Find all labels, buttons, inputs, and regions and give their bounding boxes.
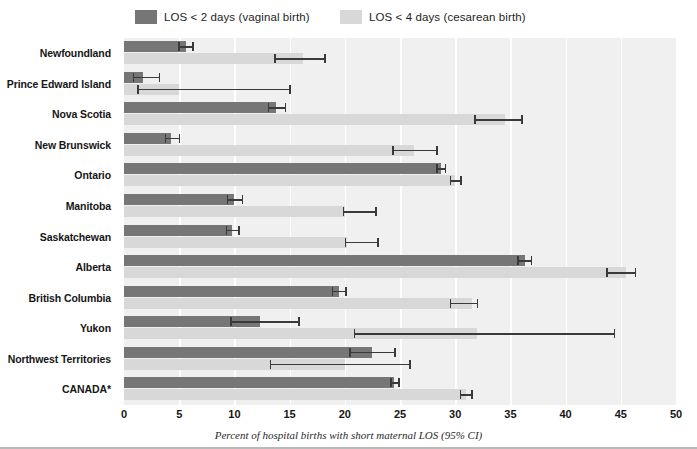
legend-item-vaginal: LOS < 2 days (vaginal birth) <box>135 10 310 24</box>
bar-cesarean <box>124 175 455 186</box>
bar-vaginal <box>124 377 394 388</box>
error-bar-cap-low <box>178 42 180 51</box>
bar-group <box>124 194 676 218</box>
legend-swatch-vaginal <box>135 10 157 24</box>
error-bar-cap-low <box>332 287 334 296</box>
y-axis-label: British Columbia <box>29 292 111 304</box>
bar-vaginal <box>124 194 234 205</box>
error-bar-cap-high <box>521 115 523 124</box>
bar-cesarean <box>124 206 345 217</box>
error-bar <box>390 377 400 388</box>
bar-cesarean <box>124 237 347 248</box>
error-bar-cap-high <box>285 103 287 112</box>
error-bar <box>606 267 636 278</box>
error-bar <box>343 206 377 217</box>
error-bar-cap-high <box>460 176 462 185</box>
y-axis-label: Manitoba <box>66 200 111 212</box>
legend-item-cesarean: LOS < 4 days (cesarean birth) <box>340 10 526 24</box>
error-bar-cap-high <box>531 256 533 265</box>
bar-group <box>124 316 676 340</box>
error-bar-cap-low <box>268 103 270 112</box>
error-bar-cap-low <box>450 299 452 308</box>
legend-swatch-cesarean <box>340 10 362 24</box>
chart-legend: LOS < 2 days (vaginal birth) LOS < 4 day… <box>0 8 697 32</box>
error-bar-cap-high <box>179 134 181 143</box>
bar-group <box>124 377 676 401</box>
error-bar-cap-low <box>606 268 608 277</box>
error-bar-cap-high <box>345 287 347 296</box>
error-bar <box>460 389 473 400</box>
legend-label-vaginal: LOS < 2 days (vaginal birth) <box>164 11 310 23</box>
error-bar-line <box>270 364 411 366</box>
error-bar-cap-low <box>165 134 167 143</box>
y-axis-label: New Brunswick <box>35 139 111 151</box>
bar-group <box>124 286 676 310</box>
error-bar-line <box>606 272 636 274</box>
error-bar-line <box>274 58 326 60</box>
x-tick-label: 35 <box>504 408 516 420</box>
x-axis-ticks: 05101520253035404550 <box>124 408 676 426</box>
error-bar <box>270 359 411 370</box>
error-bar-line <box>354 333 616 335</box>
error-bar-line <box>474 119 523 121</box>
plot-area <box>124 38 676 405</box>
bar-cesarean <box>124 267 626 278</box>
error-bar-cap-high <box>477 299 479 308</box>
x-tick-label: 40 <box>559 408 571 420</box>
x-tick-label: 5 <box>176 408 182 420</box>
y-axis-label: CANADA* <box>62 383 111 395</box>
error-bar-cap-low <box>274 54 276 63</box>
x-tick-label: 50 <box>670 408 682 420</box>
x-axis-caption: Percent of hospital births with short ma… <box>0 429 697 441</box>
error-bar-cap-high <box>409 360 411 369</box>
error-bar-cap-low <box>226 226 228 235</box>
error-bar-line <box>349 352 395 354</box>
bar-group <box>124 225 676 249</box>
x-tick-label: 15 <box>283 408 295 420</box>
error-bar-line <box>450 303 479 305</box>
error-bar <box>450 175 462 186</box>
error-bar-line <box>392 150 437 152</box>
y-axis-label: Saskatchewan <box>40 231 111 243</box>
x-tick-label: 10 <box>228 408 240 420</box>
bar-vaginal <box>124 163 441 174</box>
error-bar-cap-high <box>298 317 300 326</box>
bar-vaginal <box>124 225 232 236</box>
y-axis-label: Prince Edward Island <box>7 78 111 90</box>
y-axis-label: Ontario <box>74 169 111 181</box>
error-bar <box>517 255 532 266</box>
bar-group <box>124 72 676 96</box>
error-bar-cap-low <box>227 195 229 204</box>
error-bar <box>392 145 437 156</box>
error-bar-line <box>133 77 161 79</box>
chart-figure: LOS < 2 days (vaginal birth) LOS < 4 day… <box>0 0 697 449</box>
error-bar-cap-low <box>349 348 351 357</box>
error-bar-cap-low <box>390 378 392 387</box>
bar-vaginal <box>124 286 339 297</box>
error-bar <box>230 316 300 327</box>
legend-label-cesarean: LOS < 4 days (cesarean birth) <box>369 11 526 23</box>
bar-cesarean <box>124 389 466 400</box>
error-bar-cap-high <box>289 85 291 94</box>
error-bar <box>274 53 326 64</box>
error-bar <box>332 286 347 297</box>
bar-vaginal <box>124 255 525 266</box>
error-bar-cap-low <box>133 73 135 82</box>
error-bar-line <box>268 107 287 109</box>
bar-vaginal <box>124 41 186 52</box>
bar-group <box>124 41 676 65</box>
x-tick-label: 20 <box>339 408 351 420</box>
error-bar <box>450 298 479 309</box>
error-bar-cap-low <box>137 85 139 94</box>
y-axis-label: Nova Scotia <box>52 108 111 120</box>
error-bar-cap-high <box>375 207 377 216</box>
error-bar <box>227 194 244 205</box>
error-bar-cap-low <box>392 146 394 155</box>
error-bar <box>133 72 161 83</box>
error-bar <box>178 41 193 52</box>
error-bar-cap-low <box>450 176 452 185</box>
error-bar <box>345 237 379 248</box>
y-axis-label: Northwest Territories <box>8 353 111 365</box>
error-bar-cap-low <box>270 360 272 369</box>
error-bar <box>436 163 446 174</box>
